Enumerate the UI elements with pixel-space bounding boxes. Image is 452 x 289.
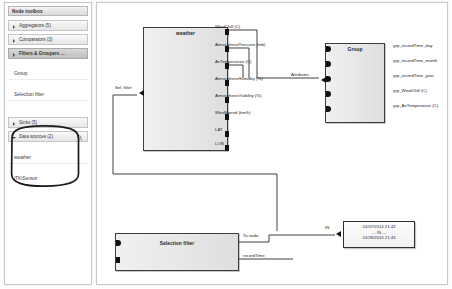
toolbox-group-label: Sinks (5) xyxy=(19,120,37,125)
toolbox-group-aggregators[interactable]: Aggregators (5) xyxy=(8,20,88,31)
port-label-lat: LAT xyxy=(215,127,223,132)
port-out-lat[interactable] xyxy=(225,131,229,137)
port-label-attributes: Attributes xyxy=(291,72,309,77)
port-out-grp-windchill[interactable] xyxy=(326,91,331,97)
port-label-grp-airtemperature: grp_AirTemperature (C) xyxy=(393,103,438,108)
node-title: Selection filter xyxy=(116,241,238,246)
port-in-sel-filter[interactable] xyxy=(139,90,144,96)
toolbox-group-label: Filters & Groupers ... xyxy=(19,51,64,56)
port-label-in: IN xyxy=(325,225,329,230)
toolbox-item-selection-filter[interactable]: Selection filter xyxy=(8,88,88,101)
port-out-lon[interactable] xyxy=(225,145,229,151)
port-label-atmospherevisibility: AtmosphereVisibility (%) xyxy=(215,93,262,98)
toolbox-group-filters-groupers[interactable]: Filters & Groupers ... xyxy=(8,48,88,59)
port-out-recordtime[interactable] xyxy=(116,257,120,263)
application-window: Node toolbox Aggregators (5) Comparators… xyxy=(0,0,452,289)
chevron-right-icon xyxy=(13,25,15,29)
toolbox-group-data-sources[interactable]: Data sources (2) xyxy=(8,131,88,142)
search-icon[interactable] xyxy=(77,135,83,141)
port-out-grp-airtemperature[interactable] xyxy=(326,106,331,112)
port-out-windchill[interactable] xyxy=(225,29,229,35)
toolbox-group-label: Data sources (2) xyxy=(19,134,53,139)
port-label-grp-recordtime-year: grp_recordTime_year xyxy=(393,73,434,78)
toolbox-group-label: Comparators (3) xyxy=(19,37,52,42)
port-out-grp-recordtime-month[interactable] xyxy=(326,61,331,67)
port-label-atmospherepressure: AtmospherePressure (mb) xyxy=(215,42,265,47)
toolbox-group-label: Aggregators (5) xyxy=(19,23,51,28)
port-label-to-node: To node xyxy=(243,233,258,238)
toolbox-group-sinks[interactable]: Sinks (5) xyxy=(8,117,88,128)
node-selection-filter[interactable]: Selection filter xyxy=(115,233,239,271)
node-toolbox-panel: Node toolbox Aggregators (5) Comparators… xyxy=(4,2,92,285)
port-label-sel-filter: Sel. filter xyxy=(115,85,132,90)
port-in-range[interactable] xyxy=(336,231,341,237)
graph-canvas[interactable]: weather WindChill (C) AtmospherePressure… xyxy=(96,2,448,285)
port-label-grp-recordtime-month: grp_recordTime_month xyxy=(393,58,438,63)
toolbox-item-weather[interactable]: weather xyxy=(8,151,88,164)
node-toolbox-title: Node toolbox xyxy=(8,6,88,16)
chevron-right-icon xyxy=(13,39,15,43)
port-label-atmospherehumidity: AtmosphereHumidity (%) xyxy=(215,76,263,81)
port-out-grp-recordtime-year[interactable] xyxy=(326,76,331,82)
node-group[interactable]: Group xyxy=(325,43,385,123)
toolbox-item-itkisensor[interactable]: iTKiSensor xyxy=(8,172,88,185)
toolbox-item-label: Selection filter xyxy=(14,92,44,97)
port-label-windchill: WindChill (C) xyxy=(215,24,240,29)
toolbox-group-comparators[interactable]: Comparators (3) xyxy=(8,34,88,45)
wire-windchill-to-group xyxy=(228,30,319,78)
toolbox-item-group[interactable]: Group xyxy=(8,67,88,80)
port-label-grp-windchill: grp_WindChill (C) xyxy=(393,88,427,93)
toolbox-item-label: Group xyxy=(14,71,27,76)
chevron-right-icon xyxy=(13,53,15,57)
node-title: Group xyxy=(326,47,384,52)
toolbox-item-label: iTKiSensor xyxy=(14,176,37,181)
port-label-recordtime: recordTime xyxy=(243,253,265,258)
port-label-grp-recordtime-day: grp_recordTime_day xyxy=(393,43,433,48)
port-label-windspeed: WindSpeed (km/h) xyxy=(215,110,251,115)
range-to: 01/28/2014 21:43 xyxy=(344,235,414,241)
chevron-down-icon xyxy=(12,137,16,139)
port-label-lon: LON xyxy=(215,141,224,146)
date-range-annotation[interactable]: 01/07/2014 21:43 --- IN --- 01/28/2014 2… xyxy=(343,221,415,248)
chevron-right-icon xyxy=(13,122,15,126)
toolbox-item-label: weather xyxy=(14,155,31,160)
node-title: weather xyxy=(144,31,227,36)
port-label-airtemperature: AirTemperature (C) xyxy=(215,59,252,64)
